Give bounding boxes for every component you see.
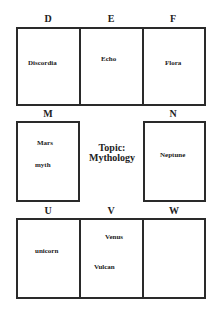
box-v [79,218,144,299]
letter-m: M [38,108,58,119]
word-echo: Echo [101,55,116,63]
word-venus: Venus [105,233,123,241]
word-vulcan: Vulcan [94,263,115,271]
box-w [142,218,206,299]
word-neptune: Neptune [160,151,185,159]
word-unicorn: unicorn [35,247,58,255]
letter-w: W [164,205,184,216]
letter-v: V [101,205,121,216]
word-discordia: Discordia [28,59,57,67]
topic-label: Topic: Mythology [84,143,140,163]
word-flora: Flora [165,59,181,67]
letter-f: F [163,13,183,24]
letter-d: D [38,13,58,24]
word-myth: myth [35,161,51,169]
letter-n: N [163,108,183,119]
box-u [16,218,81,299]
letter-e: E [101,13,121,24]
box-e [79,27,144,106]
word-mars: Mars [37,139,53,147]
letter-u: U [38,205,58,216]
box-n [143,121,206,202]
topic-line2: Mythology [84,153,140,163]
